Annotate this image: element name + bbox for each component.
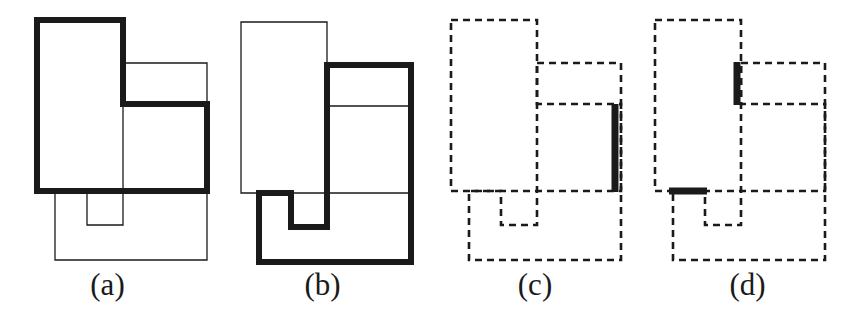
panel-c-dashed-polygon-lower-right xyxy=(469,63,621,260)
panel-a-drawing xyxy=(0,0,215,270)
panel-a-thin-polygon xyxy=(55,63,207,260)
panel-a: (a) xyxy=(0,0,215,322)
panel-d-label: (d) xyxy=(640,268,855,302)
panel-a-bold-polygon xyxy=(37,20,207,191)
panel-b: (b) xyxy=(215,0,430,322)
panel-b-drawing xyxy=(215,0,430,272)
panel-d-dashed-polygon-lower-right xyxy=(673,63,825,260)
panel-b-label: (b) xyxy=(215,268,430,302)
panel-b-bold-polygon xyxy=(259,65,411,262)
panel-a-label: (a) xyxy=(0,268,215,302)
figure-container: (a) (b) (c) (d) xyxy=(0,0,855,322)
panel-c: (c) xyxy=(430,0,640,322)
panel-c-label: (c) xyxy=(430,268,640,302)
panel-c-drawing xyxy=(430,0,640,270)
panel-d: (d) xyxy=(640,0,855,322)
panel-d-drawing xyxy=(640,0,855,270)
